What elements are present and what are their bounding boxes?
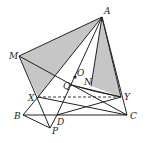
- label-c: C: [130, 111, 137, 121]
- label-p: P: [51, 126, 59, 136]
- label-n: N: [83, 77, 93, 87]
- label-a: A: [103, 6, 111, 16]
- label-x: X: [27, 93, 35, 103]
- label-b: B: [13, 111, 21, 121]
- label-q: Q: [63, 81, 71, 91]
- geometry-diagram: A M O Q N X Y B C D P: [0, 0, 148, 143]
- label-y: Y: [124, 92, 131, 102]
- label-m: M: [8, 51, 19, 61]
